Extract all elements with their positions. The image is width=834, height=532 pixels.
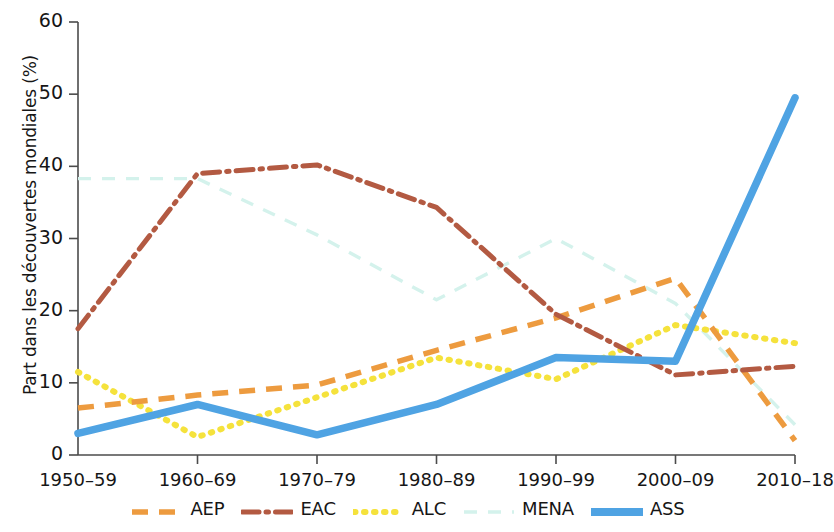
legend-swatch-ass	[591, 503, 643, 515]
legend-item-ass[interactable]: ASS	[591, 498, 685, 519]
series-lines	[78, 98, 795, 441]
legend-label: AEP	[190, 498, 224, 519]
legend-item-aep[interactable]: AEP	[131, 498, 224, 519]
legend-label: MENA	[522, 498, 574, 519]
legend-label: ALC	[412, 498, 446, 519]
axis-lines	[69, 22, 795, 464]
chart-legend: AEPEACALCMENAASS	[0, 498, 816, 519]
legend-label: EAC	[300, 498, 335, 519]
series-line-mena	[78, 179, 795, 425]
series-line-ass	[78, 98, 795, 435]
legend-swatch-eac	[241, 503, 293, 515]
legend-label: ASS	[650, 498, 685, 519]
legend-swatch-mena	[463, 503, 515, 515]
legend-swatch-aep	[131, 503, 183, 515]
legend-item-eac[interactable]: EAC	[241, 498, 335, 519]
legend-swatch-alc	[353, 503, 405, 515]
legend-item-alc[interactable]: ALC	[353, 498, 446, 519]
legend-item-mena[interactable]: MENA	[463, 498, 574, 519]
